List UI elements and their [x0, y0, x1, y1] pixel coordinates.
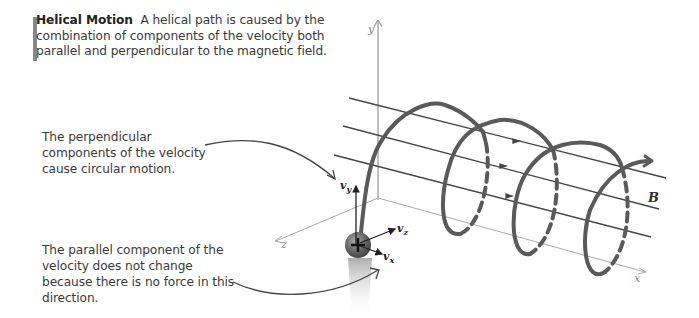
helix-diagram: y x z B vy vz	[0, 0, 699, 318]
coordinate-axes: y x z	[275, 20, 646, 285]
particle-motion-trail	[348, 258, 372, 318]
magnetic-field-label: B	[647, 190, 659, 205]
vx-label: vx	[383, 250, 394, 265]
helical-path	[360, 104, 652, 275]
z-axis-label: z	[280, 238, 287, 251]
vy-label: vy	[340, 179, 352, 194]
x-axis-label: x	[634, 272, 641, 285]
y-axis-label: y	[367, 23, 375, 36]
vz-label: vz	[397, 222, 408, 237]
